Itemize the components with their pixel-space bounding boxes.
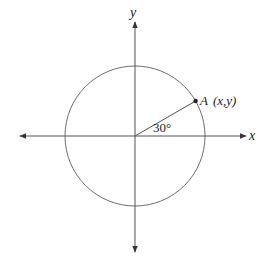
unit-circle-diagram: y x A (x,y) 30° (0, 0, 268, 265)
angle-label: 30° (153, 120, 171, 135)
point-a-dot (193, 99, 197, 103)
point-a-coords: (x,y) (213, 93, 236, 108)
x-axis-label: x (248, 128, 256, 143)
y-axis-label: y (128, 5, 137, 20)
point-a-label: A (199, 93, 208, 108)
